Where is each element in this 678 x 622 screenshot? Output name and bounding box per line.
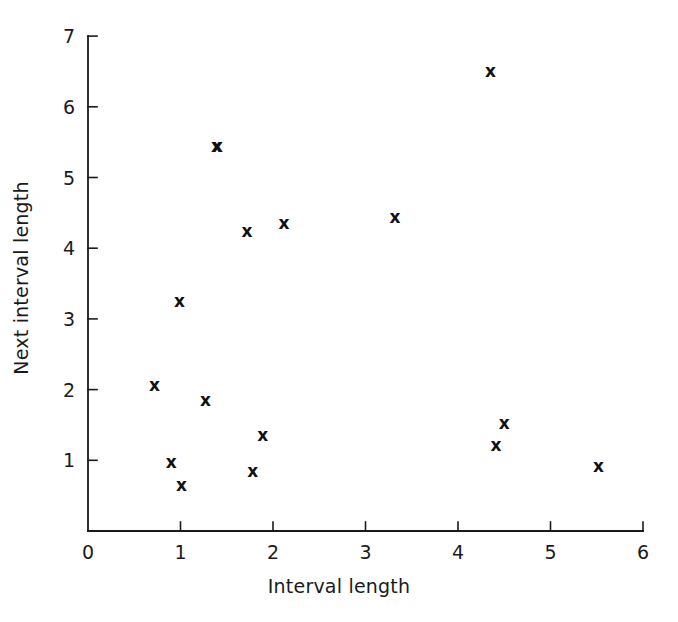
data-points: xxxxxxxxxxxxxxxx	[149, 61, 604, 495]
x-tick-label: 6	[637, 541, 649, 563]
x-tick-label: 5	[544, 541, 556, 563]
data-point-marker: x	[490, 435, 501, 455]
y-tick-label: 5	[63, 167, 75, 189]
y-tick-label: 4	[63, 237, 75, 259]
data-point-marker: x	[499, 413, 510, 433]
y-axis-title: Next interval length	[10, 128, 32, 428]
data-point-marker: x	[200, 390, 211, 410]
data-point-marker: x	[242, 221, 253, 241]
data-point-marker: x	[247, 461, 258, 481]
data-point-marker: x	[485, 61, 496, 81]
data-point-marker: x	[390, 207, 401, 227]
scatter-plot-figure: 12345670123456 xxxxxxxxxxxxxxxx Next int…	[0, 0, 678, 622]
data-point-marker: x	[166, 452, 177, 472]
x-tick-label: 4	[452, 541, 464, 563]
y-tick-label: 1	[63, 449, 75, 471]
data-point-marker: x	[279, 213, 290, 233]
y-tick-label: 3	[63, 308, 75, 330]
x-tick-label: 0	[82, 541, 94, 563]
y-tick-label: 6	[63, 96, 75, 118]
data-point-marker: x	[257, 425, 268, 445]
data-point-marker: x	[174, 291, 185, 311]
x-axis-title: Interval length	[0, 575, 678, 597]
plot-canvas: 12345670123456 xxxxxxxxxxxxxxxx	[0, 0, 678, 622]
x-tick-label: 2	[267, 541, 279, 563]
y-tick-label: 2	[63, 379, 75, 401]
data-point-marker: x	[149, 375, 160, 395]
y-axis-title-container: Next interval length	[0, 0, 40, 560]
data-point-marker: x	[593, 456, 604, 476]
x-tick-label: 1	[174, 541, 186, 563]
x-tick-label: 3	[359, 541, 371, 563]
tick-labels: 12345670123456	[63, 25, 649, 563]
data-point-marker: x	[212, 136, 223, 156]
data-point-marker: x	[176, 475, 187, 495]
y-tick-label: 7	[63, 25, 75, 47]
